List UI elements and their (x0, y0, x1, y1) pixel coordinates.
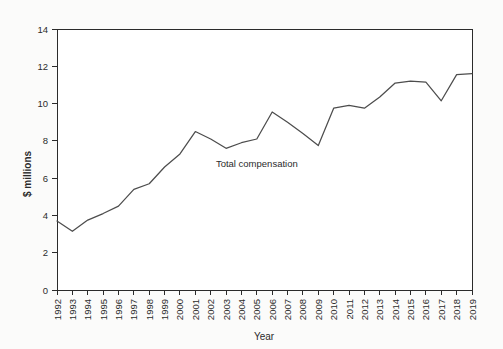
y-tick-label: 10 (37, 98, 48, 109)
x-tick-label: 2011 (344, 299, 355, 319)
y-tick-label: 2 (43, 247, 48, 258)
x-tick-label: 1993 (67, 299, 78, 320)
x-tick-label: 2017 (436, 299, 447, 320)
x-tick-label: 2014 (390, 299, 401, 320)
x-tick-label: 2012 (359, 299, 370, 320)
x-tick-label: 2013 (374, 299, 385, 320)
y-tick-label: 4 (43, 210, 48, 221)
x-tick-label: 2000 (174, 299, 185, 320)
chart-container: 02468101214 1992199319941995199619971998… (0, 0, 503, 349)
x-tick-label: 2006 (267, 299, 278, 320)
x-tick-label: 2008 (297, 299, 308, 320)
x-tick-label: 1994 (82, 299, 93, 320)
series-annotations: Total compensation (216, 158, 298, 169)
y-tick-label: 12 (37, 61, 48, 72)
x-tick-label: 1999 (159, 299, 170, 320)
y-tick-label: 6 (43, 173, 48, 184)
x-tick-label: 2016 (420, 299, 431, 320)
x-axis-title: Year (254, 331, 275, 342)
y-tick-label: 14 (37, 24, 48, 35)
x-tick-label: 2004 (236, 299, 247, 320)
series-label-annotation: Total compensation (216, 158, 298, 169)
x-tick-label: 2002 (205, 299, 216, 320)
x-tick-label: 2003 (221, 299, 232, 320)
x-tick-label: 1996 (113, 299, 124, 320)
x-tick-label: 1998 (144, 299, 155, 320)
x-tick-label: 2009 (313, 299, 324, 320)
x-tick-label: 1995 (98, 299, 109, 320)
x-tick-label: 2019 (467, 299, 478, 320)
y-axis-title: $ millions (22, 151, 33, 198)
x-tick-label: 1992 (52, 299, 63, 320)
line-chart: 02468101214 1992199319941995199619971998… (0, 0, 503, 349)
y-tick-label: 0 (43, 285, 48, 296)
x-tick-label: 2007 (282, 299, 293, 320)
x-tick-label: 2010 (328, 299, 339, 320)
y-tick-label: 8 (43, 135, 48, 146)
x-tick-label: 2018 (451, 299, 462, 320)
x-tick-label: 1997 (128, 299, 139, 320)
x-tick-label: 2015 (405, 299, 416, 320)
x-tick-label: 2001 (190, 299, 201, 320)
x-tick-label: 2005 (251, 299, 262, 320)
